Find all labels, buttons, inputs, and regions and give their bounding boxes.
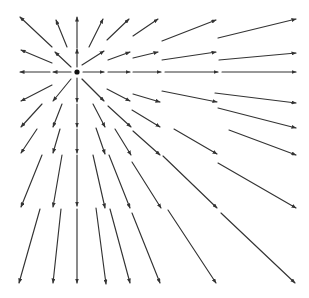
vector-arrow-r1-c2: [56, 20, 67, 47]
vector-arrow-r5-c6: [132, 110, 160, 127]
vector-arrow-r8-c5: [110, 209, 130, 283]
vector-arrow-r2-c4: [82, 51, 104, 65]
vector-arrow-r1-c8: [218, 19, 296, 38]
vector-arrow-r1-c6: [133, 19, 158, 36]
vector-arrow-r8-c7: [168, 210, 216, 283]
vector-arrow-r2-c6: [133, 52, 158, 58]
vector-arrow-r6-c5: [115, 129, 131, 155]
vector-arrow-r7-c1: [21, 155, 42, 207]
vector-arrow-r8-c4: [96, 208, 106, 284]
vector-arrow-r2-c5: [108, 52, 130, 60]
vector-arrow-r4-c6: [133, 94, 160, 102]
vector-arrow-r5-c1: [21, 104, 42, 127]
vector-arrow-r1-c7: [162, 20, 216, 41]
vector-arrow-r2-c7: [162, 52, 216, 60]
vector-arrow-r7-c5: [109, 155, 130, 208]
vector-arrow-r6-c4: [96, 128, 105, 154]
vector-arrow-r4-c1: [21, 85, 52, 101]
vector-arrows: [19, 17, 296, 284]
vector-arrow-r2-c2: [55, 52, 71, 67]
vector-arrow-r7-c4: [93, 155, 105, 208]
vector-arrow-r6-c2: [53, 129, 60, 153]
vector-arrow-r1-c5: [107, 19, 129, 40]
vector-arrow-r4-c5: [107, 89, 130, 101]
vector-arrow-r5-c2: [53, 104, 62, 127]
vector-arrow-r2-c8: [219, 53, 296, 60]
vector-arrow-r8-c2: [53, 209, 61, 283]
vector-arrow-r7-c7: [163, 156, 217, 208]
vector-arrow-r6-c1: [21, 129, 37, 153]
vector-arrow-r6-c7: [174, 129, 217, 154]
vector-arrow-r4-c8: [215, 93, 296, 103]
vector-arrow-r4-c2: [53, 79, 71, 101]
vector-arrow-r6-c8: [229, 130, 296, 155]
vector-arrow-r6-c6: [133, 131, 160, 155]
vector-arrow-r5-c5: [108, 106, 131, 127]
vector-arrow-r4-c7: [162, 91, 217, 102]
vector-arrow-r8-c8: [221, 213, 295, 283]
vector-arrow-r7-c8: [218, 163, 296, 208]
vector-arrow-r4-c4: [82, 79, 104, 101]
vector-arrow-r7-c2: [53, 155, 62, 207]
vector-arrow-r1-c1: [20, 17, 52, 47]
vector-arrow-r2-c1: [21, 50, 52, 63]
vector-arrow-r5-c8: [218, 108, 296, 128]
vector-arrow-r8-c1: [19, 209, 40, 283]
vector-arrow-r1-c4: [89, 19, 103, 47]
source-point: [74, 69, 79, 74]
vector-arrow-r7-c6: [132, 162, 161, 208]
vector-arrow-r5-c4: [93, 104, 105, 127]
vector-field-diagram: [0, 0, 309, 298]
vector-arrow-r8-c6: [132, 213, 160, 283]
